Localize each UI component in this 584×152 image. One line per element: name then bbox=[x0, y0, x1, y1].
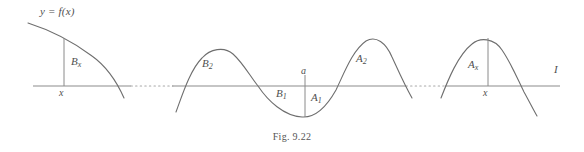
region-label-Ax: Ax bbox=[468, 59, 478, 72]
region-label-A2: A2 bbox=[356, 53, 367, 66]
curve-middle-sine bbox=[176, 39, 412, 117]
region-label-A1-base: A bbox=[311, 91, 318, 103]
region-label-Ax-subscript: x bbox=[475, 63, 479, 72]
figure-caption: Fig. 9.22 bbox=[0, 131, 584, 142]
curve-function-label: y = f(x) bbox=[40, 6, 75, 17]
interval-label-I: I bbox=[554, 64, 558, 75]
point-label-a: a bbox=[301, 66, 306, 76]
region-label-B2: B2 bbox=[202, 58, 213, 71]
region-label-A1-subscript: 1 bbox=[318, 96, 322, 105]
region-label-B1: B1 bbox=[276, 88, 287, 101]
foot-label-x-right: x bbox=[483, 88, 487, 98]
region-label-Bx-subscript: x bbox=[78, 60, 82, 69]
region-label-A1: A1 bbox=[311, 92, 322, 105]
region-label-Bx: Bx bbox=[71, 56, 81, 69]
region-label-Bx-base: B bbox=[71, 55, 78, 67]
ordinate-group bbox=[64, 38, 488, 117]
region-label-B1-subscript: 1 bbox=[283, 92, 287, 101]
region-label-A2-base: A bbox=[356, 52, 363, 64]
region-label-B2-subscript: 2 bbox=[209, 62, 213, 71]
figure-container: y = f(x) Bx x B2 a B1 A1 A2 Ax x I Fig. … bbox=[0, 0, 584, 152]
region-label-Ax-base: A bbox=[468, 58, 475, 70]
region-label-B2-base: B bbox=[202, 57, 209, 69]
figure-graphic bbox=[0, 0, 584, 152]
region-label-B1-base: B bbox=[276, 87, 283, 99]
curve-right-hump bbox=[441, 40, 537, 116]
foot-label-x-left: x bbox=[59, 88, 63, 98]
region-label-A2-subscript: 2 bbox=[363, 57, 367, 66]
